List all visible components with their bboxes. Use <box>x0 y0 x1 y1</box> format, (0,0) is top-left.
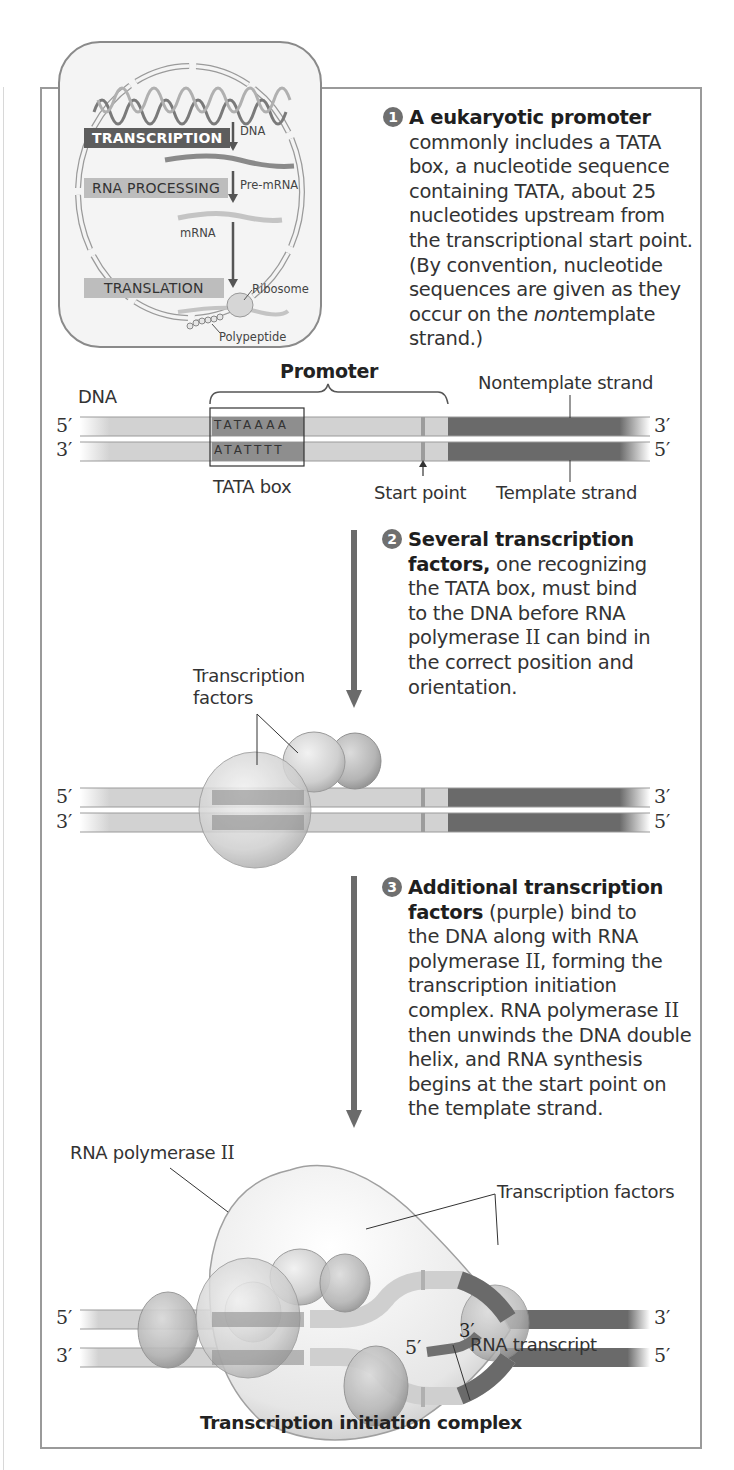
panel1-dna <box>80 384 650 482</box>
step-2-description: 2Several transcription factors, one reco… <box>408 528 708 700</box>
transcription-factors-label: Transcription factors <box>193 665 305 709</box>
inset-label-polypeptide: Polypeptide <box>219 330 286 344</box>
rna-three-prime-label: 3′ <box>459 1320 475 1341</box>
template-strand-label: Template strand <box>496 482 637 503</box>
inset-label-mrna: mRNA <box>180 226 216 240</box>
tata-box-label: TATA box <box>213 476 291 497</box>
step-3-description: 3Additional transcription factors (purpl… <box>408 876 708 1122</box>
step-2-number: 2 <box>382 529 402 549</box>
five-prime-label: 5′ <box>56 1306 72 1328</box>
inset-label-translation: TRANSLATION <box>84 278 224 298</box>
start-point-label: Start point <box>374 482 466 503</box>
three-prime-label: 3′ <box>56 438 72 460</box>
three-prime-label: 3′ <box>56 1344 72 1366</box>
five-prime-label: 5′ <box>56 414 72 436</box>
inset-label-transcription: TRANSCRIPTION <box>84 128 230 148</box>
step-1-number: 1 <box>383 107 403 127</box>
five-prime-label: 5′ <box>56 785 72 807</box>
step-3-number: 3 <box>382 877 402 897</box>
dna-label: DNA <box>78 386 117 407</box>
step-1-description: 1A eukaryotic promoter commonly includes… <box>409 106 709 352</box>
three-prime-label: 3′ <box>56 810 72 832</box>
nontemplate-strand-label: Nontemplate strand <box>478 372 653 393</box>
five-prime-label: 5′ <box>654 810 670 832</box>
rna-five-prime-label: 5′ <box>405 1336 421 1358</box>
promoter-label: Promoter <box>280 360 378 382</box>
three-prime-label: 3′ <box>654 1306 670 1328</box>
inset-label-pre-mrna: Pre-mRNA <box>240 178 298 192</box>
rna-polymerase-label: RNA polymerase II <box>70 1142 234 1163</box>
inset-label-dna: DNA <box>240 124 265 138</box>
initiation-complex-caption: Transcription initiation complex <box>200 1412 522 1433</box>
transcription-factors-label-3: Transcription factors <box>497 1181 674 1202</box>
inset-label-rna-processing: RNA PROCESSING <box>84 178 228 198</box>
three-prime-label: 3′ <box>654 785 670 807</box>
rna-transcript-label: RNA transcript <box>470 1334 597 1355</box>
five-prime-label: 5′ <box>654 438 670 460</box>
three-prime-label: 3′ <box>654 414 670 436</box>
tata-sequence-bottom: ATATTTT <box>214 443 285 457</box>
panel2-dna <box>80 714 650 868</box>
inset-label-ribosome: Ribosome <box>252 282 309 296</box>
panel3-complex <box>80 1166 650 1440</box>
tata-sequence-top: TATAAAA <box>214 418 289 432</box>
five-prime-label: 5′ <box>654 1344 670 1366</box>
